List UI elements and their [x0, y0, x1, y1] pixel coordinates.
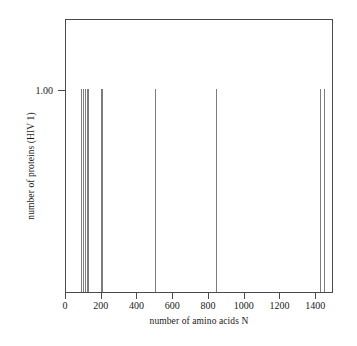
- x-tick-label: 1000: [234, 300, 254, 311]
- x-tick-label: 400: [129, 300, 144, 311]
- x-tick-label: 600: [165, 300, 180, 311]
- x-axis-ticks: 0200400600800100012001400: [0, 0, 357, 346]
- x-tick-mark: [279, 293, 280, 299]
- x-tick-mark: [244, 293, 245, 299]
- x-tick-mark: [65, 293, 66, 299]
- x-tick-mark: [208, 293, 209, 299]
- x-tick-mark: [315, 293, 316, 299]
- x-tick-label: 0: [63, 300, 68, 311]
- x-axis-label: number of amino acids N: [65, 316, 333, 326]
- x-tick-mark: [101, 293, 102, 299]
- x-tick-label: 1200: [269, 300, 289, 311]
- x-tick-mark: [136, 293, 137, 299]
- chart-figure: number of proteins (HIV 1) 1.00 02004006…: [0, 0, 357, 346]
- x-tick-label: 800: [200, 300, 215, 311]
- x-tick-label: 200: [93, 300, 108, 311]
- x-tick-mark: [172, 293, 173, 299]
- x-tick-label: 1400: [305, 300, 325, 311]
